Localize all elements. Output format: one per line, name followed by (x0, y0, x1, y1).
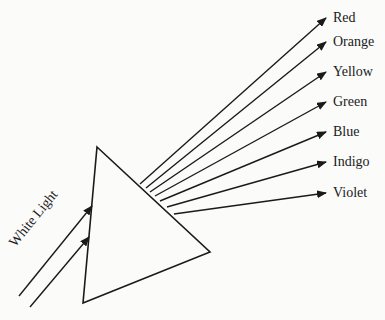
label-blue: Blue (333, 125, 359, 139)
label-violet: Violet (333, 186, 367, 200)
ray-green-arrow (155, 102, 326, 196)
ray-red-arrow (140, 18, 326, 184)
prism-diagram: White Light Red Orange Yellow Green Blue… (0, 0, 385, 320)
label-red: Red (333, 11, 356, 25)
prism-triangle (83, 147, 210, 303)
ray-yellow-arrow (150, 72, 326, 192)
ray-indigo-arrow (167, 162, 326, 207)
label-orange: Orange (333, 35, 374, 49)
spectrum-rays (140, 18, 326, 214)
ray-orange-arrow (146, 42, 326, 188)
ray-blue-arrow (160, 132, 326, 201)
label-green: Green (333, 95, 367, 109)
diagram-drawing (0, 0, 385, 320)
label-yellow: Yellow (333, 65, 373, 79)
label-indigo: Indigo (333, 155, 370, 169)
ray-violet-arrow (174, 193, 326, 214)
